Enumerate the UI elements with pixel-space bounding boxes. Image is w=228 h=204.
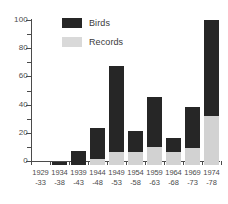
y-tick-label: 100 <box>14 15 28 24</box>
plot-area <box>31 14 221 165</box>
legend-label-birds: Birds <box>89 18 110 28</box>
x-axis-label-line1: 1934 <box>51 168 67 177</box>
bar-segment-birds[interactable] <box>166 138 181 151</box>
bar-segment-birds[interactable] <box>204 20 219 116</box>
bar-segment-records[interactable] <box>109 152 124 165</box>
x-axis-label-line2: -78 <box>201 178 223 188</box>
y-tick-label: 20 <box>19 128 28 137</box>
bar-segment-records[interactable] <box>185 148 200 165</box>
bar-segment-records[interactable] <box>166 152 181 165</box>
bar-segment-birds[interactable] <box>52 162 67 165</box>
bar-segment-records[interactable] <box>147 147 162 165</box>
bar-group[interactable] <box>128 14 143 165</box>
bar-group[interactable] <box>185 14 200 165</box>
x-tick-mark <box>221 161 222 165</box>
bar-segment-birds[interactable] <box>128 131 143 152</box>
legend-item-birds: Birds <box>62 16 123 30</box>
legend-label-records: Records <box>89 37 123 47</box>
x-axis-label-line1: 1944 <box>89 168 105 177</box>
bar-segment-birds[interactable] <box>185 107 200 148</box>
x-axis-label-line1: 1929 <box>32 168 48 177</box>
bar-segment-birds[interactable] <box>109 66 124 152</box>
x-axis-label-line1: 1939 <box>70 168 86 177</box>
x-axis-label-line1: 1974 <box>203 168 219 177</box>
y-tick-label: 60 <box>19 71 28 80</box>
bar-segment-birds[interactable] <box>147 97 162 146</box>
x-axis-label-line1: 1954 <box>127 168 143 177</box>
x-axis-label-line1: 1964 <box>165 168 181 177</box>
y-tick-label: 0 <box>23 156 28 165</box>
bar-group[interactable] <box>33 14 48 165</box>
chart-legend: Birds Records <box>62 16 123 54</box>
x-axis-label: 1974-78 <box>201 168 223 188</box>
bar-segment-records[interactable] <box>90 159 105 165</box>
bar-segment-birds[interactable] <box>71 151 86 165</box>
bar-segment-birds[interactable] <box>90 128 105 158</box>
bar-group[interactable] <box>166 14 181 165</box>
legend-item-records: Records <box>62 35 123 49</box>
bar-group[interactable] <box>204 14 219 165</box>
x-axis-label-line1: 1969 <box>184 168 200 177</box>
y-tick-label: 40 <box>19 100 28 109</box>
x-axis-labels: 1929-331934-381939-431944-481949-531954-… <box>31 168 221 198</box>
bar-segment-records[interactable] <box>128 152 143 165</box>
x-axis-label-line1: 1959 <box>146 168 162 177</box>
bar-segment-records[interactable] <box>204 116 219 165</box>
legend-swatch-records-icon <box>62 37 82 47</box>
bar-group[interactable] <box>147 14 162 165</box>
x-axis-label-line1: 1949 <box>108 168 124 177</box>
y-tick-label: 80 <box>19 43 28 52</box>
legend-swatch-birds-icon <box>62 18 82 28</box>
bar-chart: 020406080100 1929-331934-381939-431944-4… <box>0 0 228 204</box>
